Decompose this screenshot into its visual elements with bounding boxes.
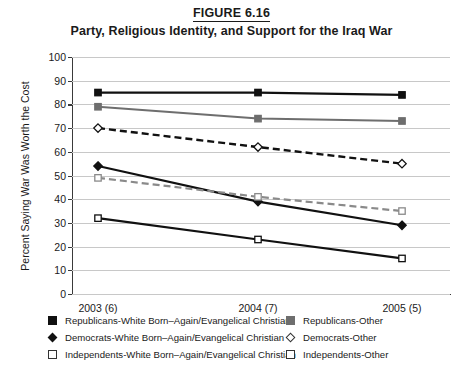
series-group	[95, 104, 405, 125]
filled-square-icon	[45, 316, 60, 325]
series-group	[94, 162, 406, 230]
data-point-marker	[95, 215, 101, 221]
series-line	[98, 128, 402, 164]
data-point-marker	[399, 118, 405, 124]
open-square-icon	[283, 350, 298, 359]
data-point-marker	[398, 159, 406, 167]
y-axis-tick-label: 70	[54, 122, 66, 134]
figure-container: FIGURE 6.16 Party, Religious Identity, a…	[0, 0, 463, 383]
open-square-icon	[45, 350, 60, 359]
data-point-marker	[254, 143, 262, 151]
data-point-marker	[255, 89, 261, 95]
legend-item: Democrats-Other	[283, 329, 388, 346]
figure-number: FIGURE 6.16	[0, 6, 463, 20]
data-point-marker	[255, 236, 261, 242]
legend-marker-glyph	[48, 316, 57, 325]
data-point-marker	[255, 194, 261, 200]
legend-marker-glyph	[48, 350, 57, 359]
y-axis-label-text: Percent Saying War Was Worth the Cost	[19, 81, 31, 270]
legend-item: Independents-Other	[283, 346, 388, 363]
series-line	[98, 166, 402, 225]
data-point-marker	[95, 104, 101, 110]
legend-marker-glyph	[286, 350, 295, 359]
y-axis-tick-label: 40	[54, 193, 66, 205]
data-point-marker	[399, 255, 405, 261]
series-line	[98, 178, 402, 211]
series-layer	[72, 57, 450, 294]
legend-marker-glyph	[286, 333, 296, 343]
data-point-marker	[94, 124, 102, 132]
y-axis-tick-label: 0	[60, 288, 66, 300]
y-axis-tick-label: 30	[54, 217, 66, 229]
legend-item-label: Democrats-White Born–Again/Evangelical C…	[65, 332, 284, 343]
legend-item-label: Independents-White Born–Again/Evangelica…	[65, 349, 296, 360]
y-axis-tick-label: 80	[54, 98, 66, 110]
legend-column-left: Republicans-White Born–Again/Evangelical…	[45, 312, 296, 363]
y-axis-tick-label: 90	[54, 75, 66, 87]
figure-title: Party, Religious Identity, and Support f…	[0, 24, 463, 38]
series-group	[95, 89, 405, 98]
data-point-marker	[398, 221, 406, 229]
legend-item-label: Republicans-White Born–Again/Evangelical…	[65, 315, 291, 326]
data-point-marker	[95, 175, 101, 181]
data-point-marker	[94, 162, 102, 170]
legend-item: Democrats-White Born–Again/Evangelical C…	[45, 329, 296, 346]
y-axis-tick-label: 20	[54, 241, 66, 253]
legend-item-label: Republicans-Other	[303, 315, 383, 326]
legend-column-right: Republicans-OtherDemocrats-OtherIndepend…	[283, 312, 388, 363]
chart-legend: Republicans-White Born–Again/Evangelical…	[0, 312, 463, 368]
legend-marker-glyph	[286, 316, 295, 325]
series-line	[98, 107, 402, 121]
data-point-marker	[399, 208, 405, 214]
y-axis-label: Percent Saying War Was Worth the Cost	[18, 57, 32, 294]
y-axis-tick-label: 50	[54, 170, 66, 182]
y-axis-tick-label: 60	[54, 146, 66, 158]
plot-area: 0102030405060708090100	[72, 57, 450, 294]
y-axis-tick-mark	[68, 294, 72, 295]
figure-number-text: FIGURE 6.16	[193, 6, 270, 22]
legend-item-label: Democrats-Other	[303, 332, 377, 343]
gridline	[72, 294, 450, 295]
open-diamond-icon	[283, 334, 298, 341]
legend-item: Independents-White Born–Again/Evangelica…	[45, 346, 296, 363]
data-point-marker	[255, 115, 261, 121]
series-group	[95, 175, 405, 215]
legend-item-label: Independents-Other	[303, 349, 388, 360]
series-group	[95, 215, 405, 262]
legend-item: Republicans-White Born–Again/Evangelical…	[45, 312, 296, 329]
y-axis-tick-label: 10	[54, 264, 66, 276]
filled-diamond-icon	[45, 334, 60, 341]
legend-marker-glyph	[48, 333, 58, 343]
gray-square-icon	[283, 316, 298, 325]
series-group	[94, 124, 406, 168]
series-line	[98, 93, 402, 95]
data-point-marker	[95, 89, 101, 95]
series-line	[98, 218, 402, 258]
data-point-marker	[399, 92, 405, 98]
legend-item: Republicans-Other	[283, 312, 388, 329]
y-axis-tick-label: 100	[48, 51, 66, 63]
